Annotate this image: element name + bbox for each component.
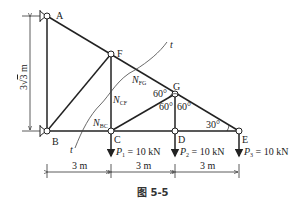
span-label-1: 3 m — [72, 160, 88, 171]
figure-caption: 图 5-5 — [137, 187, 169, 198]
force-label-NCF: NCF — [112, 94, 128, 106]
force-label-NBC: NBC — [92, 117, 108, 129]
angle-label-e: 30° — [206, 119, 220, 130]
angle-arc-e — [227, 125, 229, 131]
load-label-P1: P1 = 10 kN — [115, 146, 160, 158]
angle-label-g-bottom-left: 60° — [159, 101, 173, 112]
section-label-top: t — [170, 39, 173, 50]
truss-diagram: t t A B C D E F G NFG NCF NBC 60° 60° 60… — [0, 0, 306, 209]
node-label-A: A — [56, 10, 64, 21]
node-label-B: B — [52, 136, 59, 147]
load-label-P2: P2 = 10 kN — [179, 146, 224, 158]
section-label-bottom: t — [70, 144, 73, 155]
member-BF — [47, 54, 111, 131]
load-label-P3: P3 = 10 kN — [243, 146, 288, 158]
node-label-E: E — [242, 134, 248, 145]
member-AE — [47, 16, 239, 131]
angle-label-g-bottom-right: 60° — [177, 101, 191, 112]
angle-label-g-left: 60° — [153, 88, 167, 99]
joint-F — [108, 51, 114, 57]
node-label-F: F — [117, 48, 123, 59]
span-label-2: 3 m — [136, 160, 152, 171]
joint-B — [44, 128, 50, 134]
joint-A — [44, 13, 50, 19]
span-label-3: 3 m — [200, 160, 216, 171]
force-label-NFG: NFG — [131, 74, 147, 86]
node-label-D: D — [178, 134, 185, 145]
height-dimension-label: 3√3 m — [18, 64, 29, 90]
node-label-G: G — [173, 81, 180, 92]
truss-members — [47, 16, 239, 131]
node-label-C: C — [114, 134, 121, 145]
